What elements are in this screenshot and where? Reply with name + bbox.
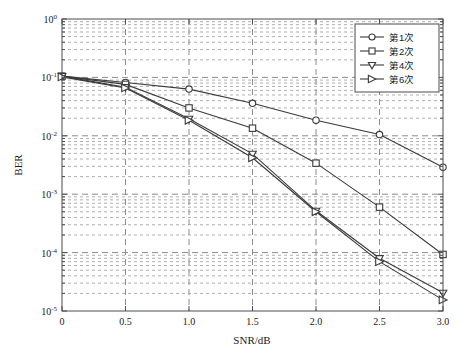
y-axis-tick-labels: 10010-110-210-310-410-5: [41, 13, 57, 317]
x-tick-label: 0: [60, 316, 65, 327]
y-tick-label: 100: [44, 13, 58, 25]
legend-label: 第2次: [389, 46, 414, 57]
legend-label: 第1次: [389, 32, 414, 43]
marker-circle: [376, 131, 382, 137]
marker-circle: [369, 34, 375, 40]
y-tick-label: 10-1: [41, 71, 57, 83]
marker-square: [369, 48, 375, 54]
y-axis-title: BER: [12, 154, 24, 176]
chart-canvas: 00.51.01.52.02.53.0 10010-110-210-310-41…: [0, 0, 467, 357]
marker-circle: [186, 86, 192, 92]
x-tick-label: 2.5: [373, 316, 386, 327]
marker-square: [186, 105, 192, 111]
y-tick-label: 10-5: [41, 305, 57, 317]
legend-label: 第6次: [389, 74, 414, 85]
x-tick-label: 2.0: [310, 316, 323, 327]
marker-square: [249, 125, 255, 131]
y-tick-label: 10-3: [41, 188, 57, 200]
marker-circle: [249, 100, 255, 106]
x-tick-label: 3.0: [437, 316, 450, 327]
x-axis-title: SNR/dB: [233, 334, 270, 346]
marker-circle: [313, 117, 319, 123]
y-tick-label: 10-2: [41, 130, 57, 142]
chart-legend[interactable]: 第1次第2次第4次第6次: [355, 24, 439, 92]
marker-square: [313, 160, 319, 166]
y-tick-label: 10-4: [41, 247, 57, 259]
ber-vs-snr-chart: 00.51.01.52.02.53.0 10010-110-210-310-41…: [0, 0, 467, 357]
marker-square: [376, 204, 382, 210]
legend-label: 第4次: [389, 60, 414, 71]
x-axis-tick-labels: 00.51.01.52.02.53.0: [60, 316, 450, 327]
x-tick-label: 1.5: [246, 316, 259, 327]
x-tick-label: 0.5: [119, 316, 132, 327]
x-tick-label: 1.0: [183, 316, 196, 327]
